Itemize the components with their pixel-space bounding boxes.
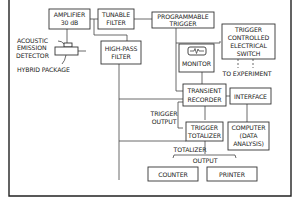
tunable-filter-block: TUNABLE FILTER [98,9,134,29]
interface-block: INTERFACE [230,88,271,104]
totalizer-output-label-2: OUTPUT [193,157,218,164]
hybrid-package-label: HYBRID PACKAGE [17,66,70,73]
programmable-trigger-label-2: TRIGGER [168,20,197,27]
amplifier-gain: 30 dB [61,19,79,26]
computer-label-2: (DATA [240,132,259,139]
to-experiment-label: TO EXPERIMENT [222,70,272,77]
monitor-label: MONITOR [182,60,212,67]
tunable-filter-label-1: TUNABLE [101,11,130,18]
transient-recorder-block: TRANSIENT RECORDER [183,84,226,106]
detector-hybrid-package [55,41,78,64]
switch-label-3: ELECTRICAL [230,42,267,49]
trigger-totalizer-label-1: TRIGGER [190,124,219,131]
trigger-output-label-1: TRIGGER [149,110,178,117]
high-pass-label-1: HIGH-PASS [105,45,138,52]
computer-label-3: ANALYSIS) [233,140,264,147]
trigger-switch-block: TRIGGER CONTROLLED ELECTRICAL SWITCH [222,24,275,59]
printer-block: PRINTER [207,167,257,181]
acoustic-label: ACOUSTIC [17,37,48,44]
block-diagram: AMPLIFIER 30 dB TUNABLE FILTER PROGRAMMA… [0,0,295,198]
trigger-totalizer-block: TRIGGER TOTALIZER [186,122,223,141]
computer-label-1: COMPUTER [232,124,267,131]
transient-recorder-label-2: RECORDER [188,96,223,103]
trigger-output-label-2: OUTPUT [152,118,177,125]
switch-label-4: SWITCH [237,50,261,57]
totalizer-output-label-1: TOTALIZER [172,146,207,153]
counter-label: COUNTER [158,171,188,178]
interface-label: INTERFACE [234,93,267,100]
tunable-filter-label-2: FILTER [106,19,126,26]
amplifier-block: AMPLIFIER 30 dB [49,9,90,29]
printer-label: PRINTER [219,171,246,178]
high-pass-label-2: FILTER [111,53,131,60]
monitor-block: MONITOR [179,44,214,72]
programmable-trigger-label-1: PROGRAMMABLE [157,13,208,20]
counter-block: COUNTER [148,167,198,181]
acoustic-emission-sensor [64,43,72,47]
trigger-totalizer-label-2: TOTALIZER [187,132,222,139]
emission-label: EMISSION [17,44,47,51]
detector-label: DETECTOR [16,52,50,59]
detector-body [55,47,78,55]
transient-recorder-label-1: TRANSIENT [187,87,222,94]
high-pass-filter-block: HIGH-PASS FILTER [101,41,141,64]
switch-label-1: TRIGGER [234,26,263,33]
switch-label-2: CONTROLLED [228,34,270,41]
programmable-trigger-block: PROGRAMMABLE TRIGGER [152,12,214,28]
computer-block: COMPUTER (DATA ANALYSIS) [228,122,269,150]
amplifier-label: AMPLIFIER [54,11,86,18]
